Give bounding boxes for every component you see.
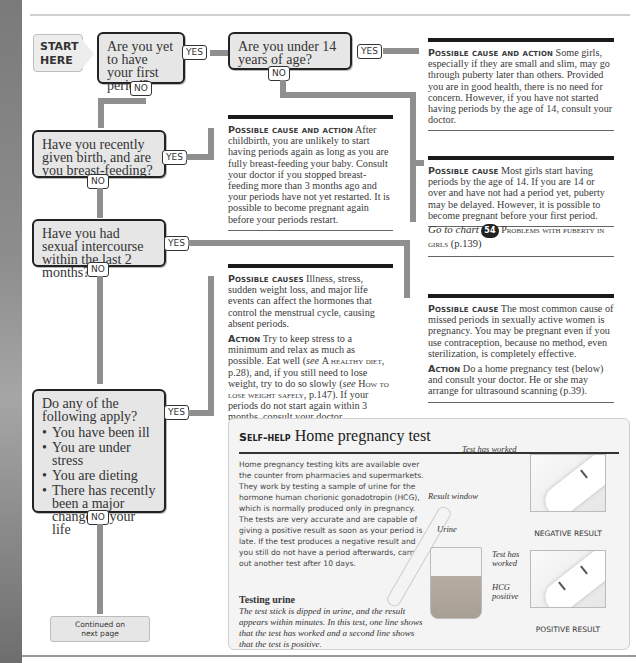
question-intercourse: Have you had sexual intercourse within t…: [32, 219, 166, 267]
urine-glass-illustration: [430, 547, 482, 619]
no-tag: NO: [268, 66, 290, 81]
question-text: Do any of the following apply?: [42, 396, 137, 424]
arrow-yes: [383, 48, 419, 54]
arrow-no: [97, 188, 103, 218]
chart-number-badge: 54: [481, 224, 498, 238]
outcome-label: Possible cause and action: [228, 124, 353, 135]
label-test-worked-2: Test has worked: [492, 550, 532, 568]
no-tag: NO: [87, 510, 109, 525]
yes-tag: YES: [164, 405, 189, 420]
bottom-rule: [22, 655, 636, 657]
subtext: The test stick is dipped in urine, and t…: [239, 606, 423, 649]
goto-chart-link[interactable]: Go to chart 54 Problems with puberty in …: [428, 219, 614, 257]
arrow-no: [410, 92, 416, 222]
outcome-text: After childbirth, you are unlikely to st…: [228, 124, 390, 225]
question-breastfeeding: Have you recently given birth, and are y…: [32, 130, 166, 178]
list-item: You are under stress: [42, 441, 156, 467]
see-ref: see: [306, 355, 319, 366]
outcome-late-puberty: Possible cause and action Some girls, es…: [428, 38, 614, 131]
question-under-14: Are you under 14 years of age?: [228, 32, 352, 70]
self-help-title: Self-help Home pregnancy test: [239, 427, 431, 445]
arrow-yes: [188, 240, 410, 246]
self-help-label: Self-help: [239, 431, 291, 444]
action-label: Action: [228, 333, 260, 344]
outcome-text: Some girls, especially if they are small…: [428, 47, 612, 125]
question-first-period: Are you yet to have your first period?: [97, 32, 185, 84]
yes-tag: YES: [357, 44, 382, 59]
arrow-yes: [208, 128, 214, 160]
caption-negative: NEGATIVE RESULT: [530, 529, 606, 538]
caption-positive: POSITIVE RESULT: [530, 625, 606, 634]
top-rule: [30, 14, 630, 16]
page-edge: [0, 0, 22, 663]
list-item: You are dieting: [42, 469, 156, 482]
action-label: Action: [428, 363, 460, 374]
stick-shape: [539, 550, 606, 608]
start-here-marker: START HERE: [33, 34, 83, 72]
subheading: Testing urine: [239, 594, 295, 605]
goto-page: (p.139): [451, 238, 482, 249]
arrow-yes: [404, 240, 410, 298]
negative-result-image: [530, 454, 606, 512]
yes-tag: YES: [162, 150, 187, 165]
label-test-worked: Test has worked: [462, 445, 516, 454]
start-label: START: [40, 40, 82, 54]
yes-tag: YES: [164, 236, 189, 251]
yes-tag: YES: [182, 45, 207, 60]
label-hcg-positive: HCG positive: [492, 583, 532, 601]
arrow-no: [410, 160, 424, 166]
label-result-window: Result window: [428, 492, 478, 501]
positive-result-image: [530, 550, 606, 608]
outcome-label: Possible cause and action: [428, 47, 553, 58]
outcome-lifestyle: Possible causes Illness, stress, sudden …: [228, 264, 393, 429]
outcome-pregnancy: Possible cause The most common cause of …: [428, 294, 614, 403]
start-label-2: HERE: [40, 54, 82, 68]
question-text: Are you under 14 years of age?: [238, 39, 336, 67]
stick-shape: [539, 454, 606, 512]
question-text: Have you recently given birth, and are y…: [42, 137, 153, 178]
outcome-label: Possible causes: [228, 273, 304, 284]
question-lifestyle: Do any of the following apply? You have …: [32, 389, 166, 513]
self-help-body: Home pregnancy testing kits are availabl…: [239, 459, 429, 569]
list-item: You have been ill: [42, 426, 156, 439]
outcome-delayed-puberty: Possible cause Most girls start having p…: [428, 156, 614, 227]
no-tag: NO: [87, 174, 109, 189]
arrow-yes: [210, 50, 228, 56]
arrow-yes: [208, 276, 214, 416]
self-help-heading: Home pregnancy test: [295, 427, 431, 444]
no-tag: NO: [87, 262, 109, 277]
outcome-label: Possible cause: [428, 165, 498, 176]
outcome-label: Possible cause: [428, 303, 498, 314]
arrow-no: [280, 92, 415, 98]
continued-next-page-button[interactable]: Continued on next page: [50, 616, 150, 642]
label-urine: Urine: [437, 525, 457, 534]
outcome-breastfeeding: Possible cause and action After childbir…: [228, 115, 393, 231]
arrow-no: [98, 98, 146, 104]
continued-label-2: next page: [51, 629, 149, 638]
goto-prefix: Go to chart: [428, 223, 479, 235]
arrow-no: [97, 524, 103, 614]
arrow-no: [97, 276, 103, 384]
continued-label: Continued on: [51, 620, 149, 629]
see-ref: see: [343, 378, 356, 389]
no-tag: NO: [130, 81, 152, 96]
ref-healthy-diet[interactable]: A healthy diet: [322, 355, 382, 366]
